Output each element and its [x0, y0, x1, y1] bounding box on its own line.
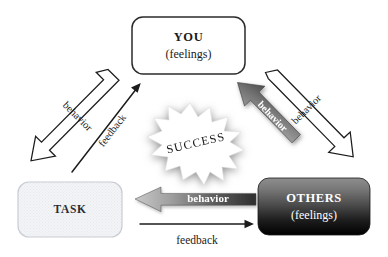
arrow-label-behavior-others-you: behavior: [256, 99, 291, 134]
arrow-behavior-others-to-task: behavior: [135, 187, 256, 212]
arrow-label-behavior-others-task: behavior: [187, 192, 229, 204]
success-burst: SUCCESS: [147, 103, 244, 185]
arrow-feedback-task-to-others: feedback: [140, 220, 254, 246]
arrow-label-feedback-task-others: feedback: [176, 234, 218, 246]
task-node[interactable]: TASK: [18, 182, 122, 237]
others-node-label: OTHERS: [286, 191, 342, 205]
diagram-canvas: behavior feedback behavior behavior SUCC…: [0, 0, 388, 257]
you-node-label: YOU: [174, 30, 204, 44]
others-node[interactable]: OTHERS (feelings): [258, 178, 370, 235]
you-node-sublabel: (feelings): [166, 47, 212, 61]
diagram-svg: behavior feedback behavior behavior SUCC…: [0, 0, 388, 257]
you-node[interactable]: YOU (feelings): [132, 17, 245, 74]
task-node-label: TASK: [54, 203, 87, 215]
arrow-label-feedback-task-you: feedback: [96, 111, 128, 148]
others-node-sublabel: (feelings): [291, 208, 337, 222]
